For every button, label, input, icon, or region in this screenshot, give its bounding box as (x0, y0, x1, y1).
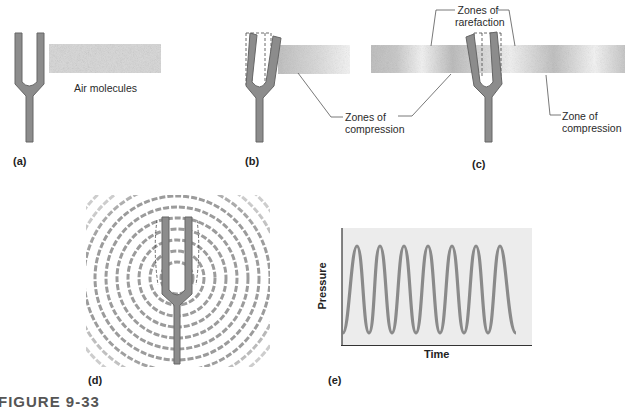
x-axis-title: Time (424, 348, 449, 360)
figure-caption: FIGURE 9-33 (0, 393, 100, 410)
panel-b-label: (b) (245, 155, 259, 167)
panel-d-label: (d) (88, 374, 102, 386)
tuning-fork-icon (15, 33, 44, 142)
panel-c-label: (c) (472, 158, 485, 170)
panel-a-label: (a) (13, 155, 26, 167)
panel-b-graphic (246, 33, 350, 142)
pressure-time-chart (341, 228, 532, 346)
label-line-2: compression (562, 122, 622, 134)
label-line-2: rarefaction (455, 16, 501, 28)
zone-of-compression-label-c: Zone of compression (562, 110, 622, 134)
label-line-1: Zones of (455, 4, 501, 16)
tuning-fork-icon (246, 33, 281, 142)
label-line-1: Zones of (345, 111, 405, 123)
y-axis-title: Pressure (316, 256, 328, 316)
zones-of-compression-label-b: Zones of compression (345, 111, 405, 135)
zones-of-rarefaction-label: Zones of rarefaction (455, 4, 501, 28)
air-molecules-label: Air molecules (74, 82, 137, 94)
panel-e-label: (e) (328, 374, 341, 386)
label-line-1: Zone of (562, 110, 622, 122)
label-line-2: compression (345, 123, 405, 135)
